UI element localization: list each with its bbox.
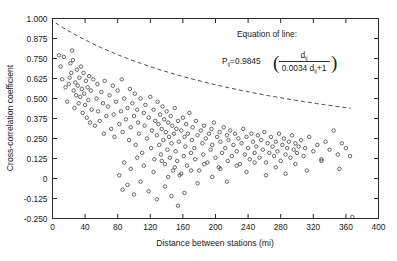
x-tick-label: 200: [209, 222, 223, 232]
x-tick-label: 40: [80, 222, 90, 232]
y-tick-label: 0.500: [27, 94, 48, 104]
y-tick-label: 0.375: [27, 114, 48, 124]
x-tick-label: 120: [143, 222, 157, 232]
chart-background: [0, 0, 397, 261]
y-tick-label: -0.125: [24, 194, 48, 204]
y-tick-label: 1.000: [27, 14, 48, 24]
equation-right-paren: ): [331, 52, 337, 74]
x-axis-title: Distance between stations (mi): [156, 238, 274, 248]
equation-heading: Equation of line:: [237, 29, 297, 39]
x-tick-label: 80: [113, 222, 123, 232]
y-axis-title: Cross-correlation coefficient: [5, 64, 15, 171]
x-tick-label: 240: [241, 222, 255, 232]
equation-left-paren: (: [273, 52, 279, 74]
y-tick-label: 0.750: [27, 54, 48, 64]
x-tick-label: 160: [176, 222, 190, 232]
y-tick-label: 0.875: [27, 34, 48, 44]
chart-canvas: 04080120160200240280320360400 -0.250-0.1…: [0, 0, 397, 261]
y-tick-label: -0.250: [24, 214, 48, 224]
scatter-plot-figure: 04080120160200240280320360400 -0.250-0.1…: [0, 0, 397, 261]
y-tick-label: 0.250: [27, 134, 48, 144]
x-tick-label: 280: [274, 222, 288, 232]
equation-denominator: 0.0034 dij+1: [282, 63, 327, 74]
x-tick-label: 360: [339, 222, 353, 232]
x-tick-label: 0: [50, 222, 55, 232]
x-tick-label: 320: [306, 222, 320, 232]
y-tick-label: 0: [43, 174, 48, 184]
y-tick-label: 0.125: [27, 154, 48, 164]
y-tick-label: 0.625: [27, 74, 48, 84]
x-tick-label: 400: [372, 222, 386, 232]
